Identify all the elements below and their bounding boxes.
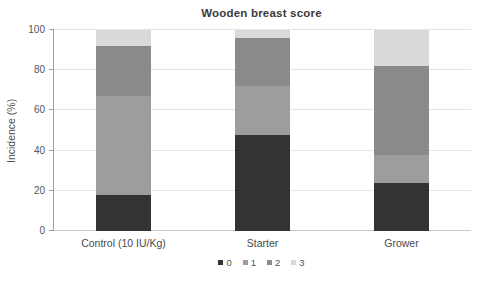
legend-swatch bbox=[267, 260, 272, 265]
bar-segment bbox=[374, 183, 429, 231]
bar-segment bbox=[96, 46, 151, 96]
y-tick-label: 60 bbox=[34, 105, 45, 115]
bar bbox=[96, 30, 151, 231]
bar-segment bbox=[96, 96, 151, 194]
chart-title: Wooden breast score bbox=[53, 7, 470, 19]
bar-segment bbox=[374, 155, 429, 183]
legend: 0123 bbox=[53, 258, 470, 268]
bar-segment bbox=[374, 66, 429, 154]
y-axis-label: Incidence (%) bbox=[3, 30, 19, 231]
bar-segment bbox=[374, 30, 429, 66]
y-tick-label: 0 bbox=[39, 226, 45, 236]
bar-segment bbox=[235, 30, 290, 38]
bar-segment bbox=[235, 38, 290, 86]
y-tick-label: 80 bbox=[34, 65, 45, 75]
bar bbox=[235, 30, 290, 231]
bar-segment bbox=[96, 30, 151, 46]
legend-item: 1 bbox=[243, 258, 256, 268]
legend-item: 3 bbox=[291, 258, 304, 268]
bar-segment bbox=[96, 195, 151, 231]
legend-swatch bbox=[218, 260, 223, 265]
legend-item: 2 bbox=[267, 258, 280, 268]
bar-segment bbox=[235, 86, 290, 134]
y-tick-label: 100 bbox=[28, 25, 45, 35]
x-category-label: Control (10 IU/Kg) bbox=[49, 237, 199, 249]
y-tick-label: 40 bbox=[34, 146, 45, 156]
y-tickmark bbox=[49, 230, 54, 231]
bar-segment bbox=[235, 135, 290, 231]
legend-label: 2 bbox=[275, 258, 280, 268]
x-category-label: Starter bbox=[188, 237, 338, 249]
legend-item: 0 bbox=[218, 258, 231, 268]
y-tickmark bbox=[49, 29, 54, 30]
legend-label: 0 bbox=[226, 258, 231, 268]
y-tick-label: 20 bbox=[34, 186, 45, 196]
plot-area: 020406080100Control (10 IU/Kg)StarterGro… bbox=[53, 30, 471, 231]
y-tickmark bbox=[49, 109, 54, 110]
y-tickmark bbox=[49, 190, 54, 191]
legend-swatch bbox=[291, 260, 296, 265]
stacked-bar-chart-figure: Wooden breast score Incidence (%) 020406… bbox=[0, 0, 479, 285]
y-tickmark bbox=[49, 150, 54, 151]
legend-label: 1 bbox=[251, 258, 256, 268]
y-tickmark bbox=[49, 69, 54, 70]
legend-label: 3 bbox=[299, 258, 304, 268]
x-category-label: Grower bbox=[327, 237, 477, 249]
legend-swatch bbox=[243, 260, 248, 265]
bar bbox=[374, 30, 429, 231]
